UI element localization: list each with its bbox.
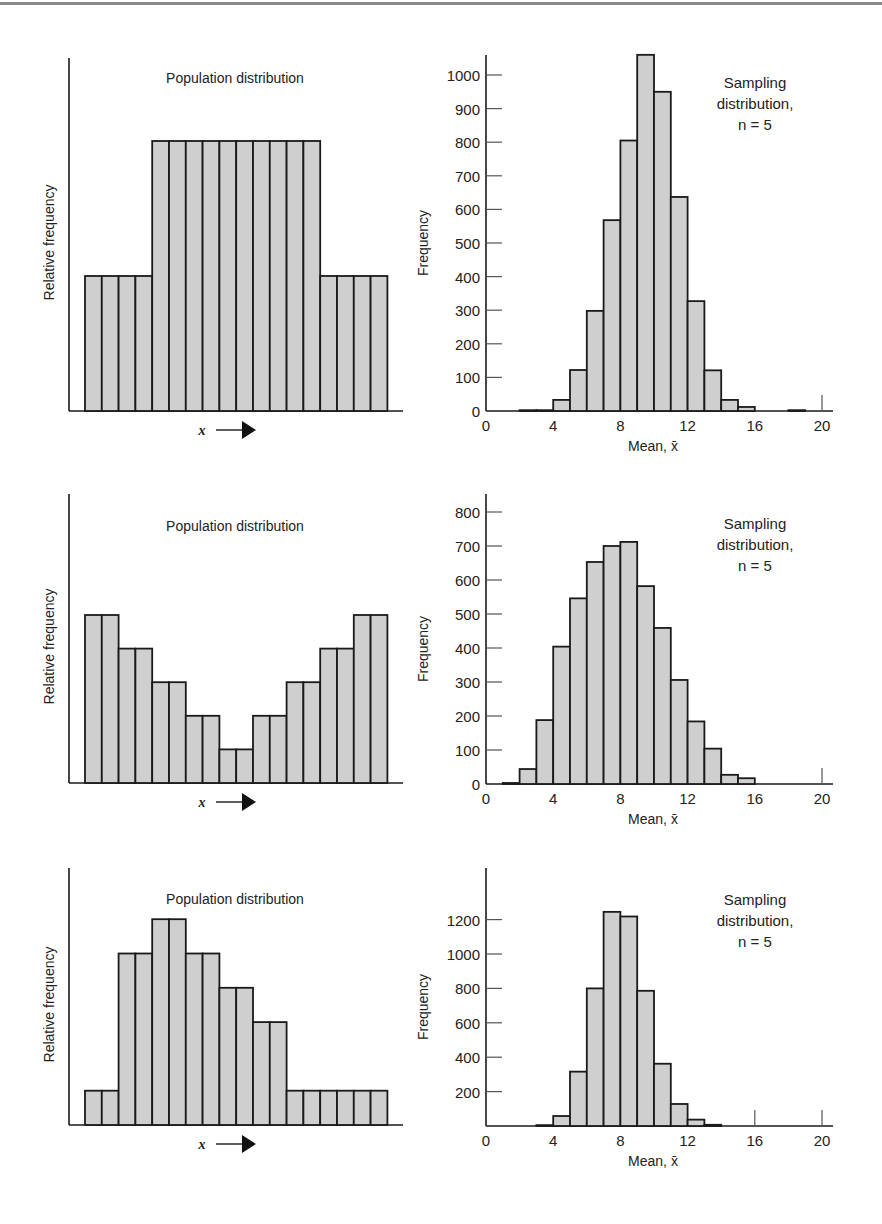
- y-tick-label: 800: [455, 504, 480, 521]
- histogram-bar: [119, 276, 136, 411]
- histogram-bar: [371, 276, 388, 411]
- histogram-bar: [704, 749, 721, 784]
- histogram-bar: [654, 92, 671, 411]
- histogram-bar: [85, 1091, 102, 1125]
- histogram-bar: [570, 598, 587, 784]
- y-tick-label: 900: [455, 101, 480, 118]
- histogram-bar: [320, 1091, 337, 1125]
- sampling-annotation: Sampling: [724, 891, 787, 908]
- sampling-chart-1: 0100200300400500600700800900100004812162…: [415, 55, 833, 454]
- sampling-annotation: n = 5: [738, 557, 772, 574]
- y-tick-label: 200: [455, 708, 480, 725]
- histogram-bar: [570, 1072, 587, 1126]
- histogram-bar: [303, 141, 320, 411]
- histogram-bar: [152, 141, 169, 411]
- histogram-bar: [169, 919, 186, 1125]
- arrow-head-icon: [242, 793, 256, 811]
- histogram-bar: [135, 954, 152, 1126]
- histogram-bar: [219, 141, 236, 411]
- histogram-bar: [253, 716, 270, 783]
- sampling-chart-2: 0100200300400500600700800048121620Freque…: [415, 494, 833, 827]
- histogram-bar: [203, 954, 220, 1126]
- y-axis-label: Relative frequency: [41, 589, 57, 705]
- population-chart-1: Population distributionRelative frequenc…: [41, 58, 403, 439]
- histogram-bar: [135, 649, 152, 783]
- histogram-bar: [320, 276, 337, 411]
- histogram-bar: [253, 1022, 270, 1125]
- sampling-annotation: n = 5: [738, 116, 772, 133]
- x-tick-label: 20: [814, 1132, 831, 1149]
- histogram-bar: [688, 301, 705, 411]
- histogram-bar: [236, 749, 253, 783]
- y-tick-label: 100: [455, 369, 480, 386]
- histogram-bar: [203, 716, 220, 783]
- histogram-bar: [135, 276, 152, 411]
- histogram-bar: [236, 141, 253, 411]
- histogram-bar: [671, 197, 688, 411]
- histogram-bar: [186, 141, 203, 411]
- histogram-bar: [102, 276, 119, 411]
- histogram-bar: [354, 615, 371, 783]
- histogram-bar: [604, 912, 621, 1126]
- y-tick-label: 0: [472, 403, 480, 420]
- histogram-bar: [102, 1091, 119, 1125]
- y-tick-label: 600: [455, 201, 480, 218]
- histogram-bar: [738, 407, 755, 411]
- y-tick-label: 600: [455, 1015, 480, 1032]
- histogram-bar: [520, 769, 537, 784]
- x-axis-label: Mean, x̄: [628, 1153, 678, 1169]
- histogram-bar: [604, 220, 621, 411]
- population-title: Population distribution: [166, 518, 304, 534]
- histogram-bar: [704, 1125, 721, 1126]
- histogram-bar: [553, 647, 570, 784]
- histogram-bar: [620, 917, 637, 1126]
- histogram-bar: [738, 778, 755, 784]
- y-tick-label: 300: [455, 674, 480, 691]
- histogram-bar: [520, 410, 537, 411]
- arrow-head-icon: [242, 421, 256, 439]
- y-tick-label: 800: [455, 980, 480, 997]
- population-chart-2: Population distributionRelative frequenc…: [41, 494, 403, 811]
- histogram-bar: [536, 720, 553, 784]
- x-tick-label: 20: [814, 790, 831, 807]
- histogram-bar: [219, 749, 236, 783]
- y-tick-label: 600: [455, 572, 480, 589]
- histogram-bar: [236, 988, 253, 1125]
- y-tick-label: 700: [455, 538, 480, 555]
- sampling-annotation: Sampling: [724, 74, 787, 91]
- y-tick-label: 200: [455, 336, 480, 353]
- histogram-bar: [536, 410, 553, 411]
- y-tick-label: 700: [455, 168, 480, 185]
- histogram-bar: [270, 141, 287, 411]
- x-axis-label: Mean, x̄: [628, 811, 678, 827]
- histogram-bar: [270, 716, 287, 783]
- y-tick-label: 400: [455, 640, 480, 657]
- y-tick-label: 0: [472, 776, 480, 793]
- y-tick-label: 200: [455, 1084, 480, 1101]
- histogram-bar: [152, 919, 169, 1125]
- x-tick-label: 8: [616, 417, 624, 434]
- y-tick-label: 300: [455, 302, 480, 319]
- x-tick-label: 16: [746, 790, 763, 807]
- y-axis-label: Relative frequency: [41, 947, 57, 1063]
- population-chart-3: Population distributionRelative frequenc…: [41, 868, 403, 1153]
- arrow-head-icon: [242, 1135, 256, 1153]
- histogram-bar: [587, 562, 604, 784]
- x-axis-label: x: [198, 1137, 206, 1152]
- histogram-bar: [102, 615, 119, 783]
- figure-canvas: Population distributionRelative frequenc…: [0, 0, 882, 1224]
- y-tick-label: 1000: [447, 67, 480, 84]
- y-tick-label: 1200: [447, 912, 480, 929]
- histogram-bar: [536, 1125, 553, 1126]
- histogram-bar: [503, 783, 520, 784]
- histogram-bar: [570, 370, 587, 411]
- sampling-annotation: distribution,: [717, 912, 794, 929]
- x-axis-label: x: [198, 795, 206, 810]
- y-tick-label: 400: [455, 269, 480, 286]
- histogram-bar: [553, 1116, 570, 1126]
- histogram-bar: [152, 682, 169, 783]
- y-tick-label: 100: [455, 742, 480, 759]
- sampling-annotation: distribution,: [717, 95, 794, 112]
- histogram-bar: [654, 628, 671, 784]
- histogram-bar: [553, 400, 570, 411]
